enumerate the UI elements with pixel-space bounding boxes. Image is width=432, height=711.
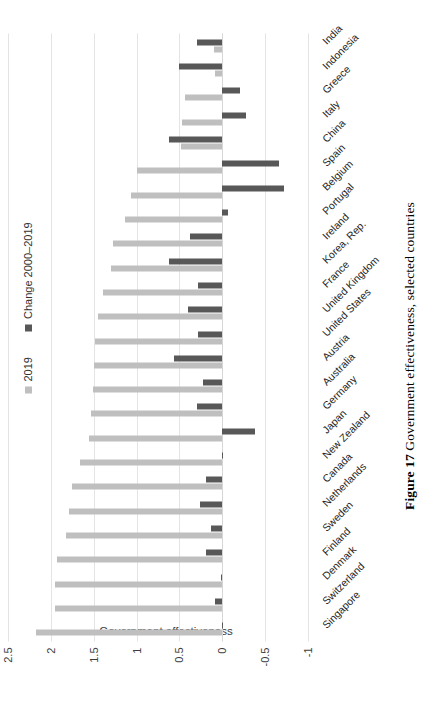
bar-2019 [89,435,223,441]
bar-change [179,63,222,69]
bar-group [8,495,308,519]
bar-group [8,179,308,203]
bar-2019 [55,581,222,587]
bar-change [200,501,222,507]
bar-group [8,422,308,446]
bar-group [8,592,308,616]
bar-2019 [98,313,222,319]
bar-group [8,446,308,470]
bar-change [222,452,223,458]
bar-group [8,82,308,106]
bar-2019 [111,265,222,271]
category-label: China [320,116,348,144]
bar-change [222,622,223,628]
bar-group [8,568,308,592]
bar-group [8,301,308,325]
bar-change [222,185,284,191]
bar-2019 [181,143,222,149]
legend-swatch [25,324,32,331]
bar-change [197,403,223,409]
axis-tick-label: 0.5 [173,647,185,685]
bar-2019 [36,629,222,635]
bar-group [8,33,308,57]
legend-item: Change 2000–2019 [22,222,34,331]
bar-change [169,258,222,264]
bar-2019 [113,240,222,246]
bar-change [197,39,223,45]
bar-group [8,349,308,373]
grid-line [308,33,309,641]
axis-tick-label: 2 [45,647,57,685]
bar-group [8,325,308,349]
bar-group [8,228,308,252]
bar-change [211,525,222,531]
bar-change [222,209,228,215]
bar-2019 [55,605,222,611]
bar-group [8,617,308,641]
bar-2019 [80,459,222,465]
bar-2019 [214,46,223,52]
chart-legend: 2019Change 2000–2019 [22,222,34,393]
bar-2019 [182,119,222,125]
bar-change [169,136,222,142]
bar-change [198,282,222,288]
bar-change [221,574,223,580]
axis-tick-label: 1.5 [88,647,100,685]
bar-change [222,112,246,118]
bar-change [188,306,222,312]
legend-label: Change 2000–2019 [22,222,34,319]
bar-change [198,331,222,337]
bar-2019 [57,556,222,562]
bar-2019 [215,70,222,76]
bar-change [206,549,222,555]
axis-tick-label: 1 [131,647,143,685]
bar-group [8,130,308,154]
bar-change [174,355,222,361]
legend-swatch [25,386,32,393]
bar-change [222,87,240,93]
bar-group [8,398,308,422]
bar-group [8,252,308,276]
figure-caption-text: Government effectiveness, selected count… [402,202,417,451]
bar-2019 [72,483,222,489]
axis-tick-label: -0.5 [259,647,271,685]
legend-label: 2019 [22,357,34,381]
bar-group [8,57,308,81]
bar-2019 [66,532,222,538]
bar-group [8,106,308,130]
bar-change [215,598,223,604]
bar-change [203,379,223,385]
bar-group [8,519,308,543]
bar-2019 [94,362,223,368]
bar-2019 [131,192,222,198]
bar-change [222,428,255,434]
bar-group [8,374,308,398]
bar-2019 [91,410,222,416]
bar-2019 [137,167,223,173]
bar-group [8,471,308,495]
bar-2019 [93,386,222,392]
chart-plot-area: Government effectiveness 2.521.510.50-0.… [8,33,308,641]
bar-2019 [185,94,222,100]
bar-change [190,233,223,239]
bar-change [222,160,279,166]
axis-tick-label: 2.5 [2,647,14,685]
bar-2019 [125,216,222,222]
bar-group [8,276,308,300]
axis-tick-label: -1 [302,647,314,685]
axis-tick-label: 0 [216,647,228,685]
figure-number: Figure 17 [402,454,417,510]
bar-change [206,476,222,482]
bar-group [8,155,308,179]
legend-item: 2019 [22,357,34,393]
figure-stage: Government effectiveness 2.521.510.50-0.… [0,0,432,711]
bar-2019 [103,289,222,295]
bar-2019 [95,338,223,344]
bar-group [8,203,308,227]
bar-group [8,544,308,568]
bar-2019 [69,508,222,514]
figure-caption: Figure 17 Government effectiveness, sele… [402,0,418,711]
